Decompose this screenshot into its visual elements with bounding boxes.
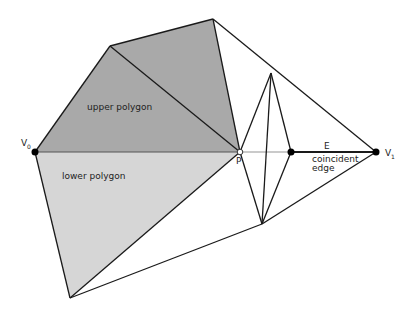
coincident-label-2: edge: [312, 163, 335, 173]
p-label: P: [236, 156, 242, 166]
vertex-v1-marker: [373, 149, 380, 156]
edge-t-e: [271, 73, 291, 152]
edge-d-e: [262, 152, 291, 224]
edge-d-p: [240, 152, 262, 224]
vertex-e-marker: [288, 149, 295, 156]
upper-polygon-label: upper polygon: [87, 102, 152, 112]
vertex-p-marker: [237, 149, 243, 155]
lower-polygon-label: lower polygon: [62, 171, 125, 181]
v0-subscript: 0: [27, 143, 31, 150]
polygon-diagram: upper polygon lower polygon V 0 V 1 P E …: [0, 0, 402, 316]
edge-e-label: E: [324, 141, 330, 151]
edge-t-d: [262, 73, 271, 224]
v1-subscript: 1: [391, 153, 395, 160]
edge-b-v1: [213, 19, 376, 152]
vertex-v0-marker: [32, 149, 39, 156]
